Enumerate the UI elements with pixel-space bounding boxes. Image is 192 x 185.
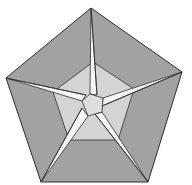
origami-pentagon-diagram [0, 0, 192, 185]
